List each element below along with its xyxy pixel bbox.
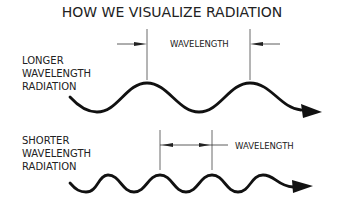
radiation-diagram — [0, 0, 344, 210]
long-wavelength-arrow-left — [117, 42, 147, 46]
short-wave — [70, 175, 293, 192]
long-wavelength-arrow-right — [250, 42, 280, 46]
short-wavelength-arrows — [160, 143, 228, 147]
long-wave — [70, 83, 301, 112]
short-wave-arrowhead — [292, 180, 313, 193]
long-wave-arrowhead — [301, 104, 322, 118]
